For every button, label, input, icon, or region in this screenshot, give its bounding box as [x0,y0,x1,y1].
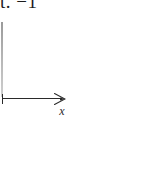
caption-fragment-text: t. −1 [0,0,100,13]
x-axis-line [2,98,60,99]
x-axis-label: x [55,104,69,119]
figure-canvas: t. −1 x [0,0,143,178]
y-axis-stub [1,22,3,97]
x-axis-origin-tick [2,94,3,104]
